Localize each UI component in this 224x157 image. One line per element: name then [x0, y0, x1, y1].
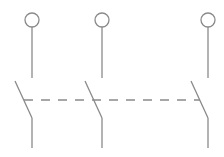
switch-pole-2	[85, 13, 109, 148]
switch-pole-3	[191, 13, 215, 148]
terminal-circle-icon	[95, 13, 109, 27]
terminal-circle-icon	[201, 13, 215, 27]
switch-poles	[15, 13, 215, 148]
terminal-circle-icon	[25, 13, 39, 27]
switch-pole-1	[15, 13, 39, 148]
switch-blade-line	[191, 81, 208, 118]
three-pole-switch-diagram	[0, 0, 224, 157]
